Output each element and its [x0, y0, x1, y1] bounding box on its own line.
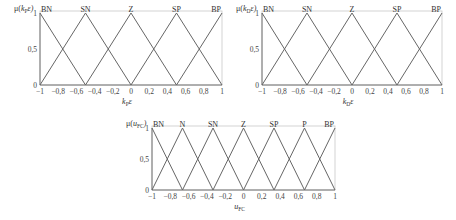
x-tick-label: −0,6: [70, 87, 84, 96]
x-tick-label: −0,4: [200, 192, 214, 201]
x-tick-label: 0: [350, 87, 354, 96]
mf-z: [307, 13, 397, 85]
mf-z: [213, 128, 274, 190]
x-tick-label: 0,8: [312, 192, 322, 201]
mf-label-bp: BP: [211, 5, 221, 14]
x-tick-label: 0,2: [257, 192, 267, 201]
x-tick-label: −0,6: [182, 192, 196, 201]
mf-z: [86, 13, 177, 85]
mf-sp: [352, 13, 442, 85]
x-tick-label: −0,2: [327, 87, 341, 96]
x-tick-label: 0,4: [383, 87, 393, 96]
x-tick-label: −0,8: [273, 87, 287, 96]
mf-label-bp: BP: [431, 5, 441, 14]
x-tick-label: 0: [242, 192, 246, 201]
x-tick-label: 1: [220, 87, 224, 96]
mf-label-sp: SP: [393, 5, 402, 14]
mf-label-p: P: [302, 120, 307, 129]
x-tick-label: −1: [148, 192, 156, 201]
mf-label-z: Z: [129, 5, 134, 14]
chart-panel-2: BNSNZSPBP−1−0,8−0,6−0,4−0,200,20,40,60,8…: [236, 4, 444, 107]
mf-p: [274, 128, 335, 190]
chart-panel-1: BNSNZSPBP−1−0,8−0,6−0,4−0,200,20,40,60,8…: [14, 4, 224, 107]
mf-n: [152, 128, 213, 190]
mf-label-sn: SN: [80, 5, 90, 14]
y-tick-label: 0: [255, 81, 259, 90]
mf-label-bp: BP: [324, 120, 334, 129]
plot-frame: [262, 11, 442, 85]
mf-sn: [262, 13, 352, 85]
mf-label-z: Z: [350, 5, 355, 14]
y-tick-label: 0,5: [28, 45, 38, 54]
x-tick-label: −0,4: [309, 87, 323, 96]
mf-label-z: Z: [241, 120, 246, 129]
mf-label-bn: BN: [263, 5, 274, 14]
x-axis-label: uFC: [234, 202, 245, 212]
y-axis-label: μ(kPε): [14, 4, 34, 14]
x-tick-label: −0,8: [163, 192, 177, 201]
y-tick-label: 0,5: [250, 45, 260, 54]
y-tick-label: 1: [33, 9, 37, 18]
mf-label-sp: SP: [172, 5, 181, 14]
mf-label-bn: BN: [41, 5, 52, 14]
x-axis-label: kDε: [343, 97, 355, 107]
y-tick-label: 0: [33, 81, 37, 90]
x-tick-label: 0,6: [401, 87, 411, 96]
mf-sp: [131, 13, 222, 85]
mf-label-n: N: [180, 120, 186, 129]
x-tick-label: −0,8: [51, 87, 65, 96]
y-tick-label: 0,5: [140, 155, 150, 164]
plot-frame: [40, 11, 222, 85]
x-tick-label: 0,4: [275, 192, 285, 201]
mf-label-bn: BN: [153, 120, 164, 129]
mf-sn: [183, 128, 244, 190]
x-tick-label: 0,2: [365, 87, 375, 96]
x-tick-label: −0,4: [88, 87, 102, 96]
mf-label-sn: SN: [208, 120, 218, 129]
membership-function-figure: BNSNZSPBP−1−0,8−0,6−0,4−0,200,20,40,60,8…: [0, 0, 456, 220]
x-tick-label: 0: [129, 87, 133, 96]
x-tick-label: 0,6: [294, 192, 304, 201]
x-tick-label: 0,8: [419, 87, 429, 96]
x-tick-label: 0,8: [199, 87, 209, 96]
x-tick-label: −0,2: [106, 87, 120, 96]
x-axis-label: kPε: [122, 97, 133, 107]
x-tick-label: 0,4: [163, 87, 173, 96]
x-tick-label: −0,2: [218, 192, 232, 201]
x-tick-label: −1: [36, 87, 44, 96]
mf-sp: [244, 128, 305, 190]
x-tick-label: −1: [258, 87, 266, 96]
y-axis-label: μ(uFC): [126, 119, 147, 129]
mf-sn: [40, 13, 131, 85]
chart-panel-3: BNNSNZSPPBP−1−0,8−0,6−0,4−0,200,20,40,60…: [126, 119, 337, 212]
y-axis-label: μ(kDε): [236, 4, 257, 14]
plot-frame: [152, 126, 335, 190]
x-tick-label: −0,6: [291, 87, 305, 96]
y-tick-label: 0: [145, 186, 149, 195]
x-tick-label: 1: [440, 87, 444, 96]
mf-label-sn: SN: [302, 5, 312, 14]
x-tick-label: 0,6: [181, 87, 191, 96]
mf-label-sp: SP: [270, 120, 279, 129]
x-tick-label: 1: [333, 192, 337, 201]
x-tick-label: 0,2: [145, 87, 155, 96]
